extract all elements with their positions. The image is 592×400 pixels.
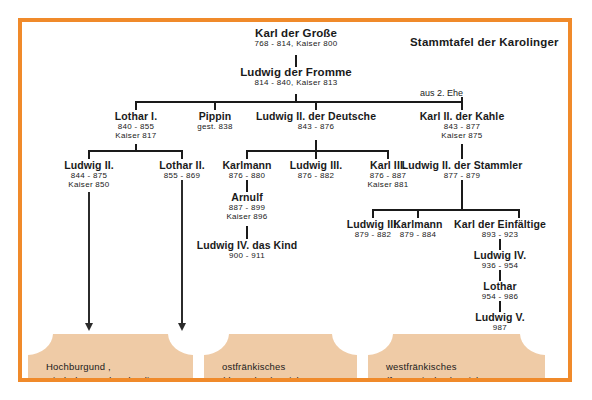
banner-notch-left [368,334,393,355]
banner-line-1: westfränkisches [386,360,482,374]
banner-line-2: (deutsches) Reich [222,374,302,378]
connector-vertical [461,144,463,159]
banner-notch-right [332,334,357,355]
node-ludwig-ii-der-stammler: Ludwig II. der Stammler 877 - 879 [402,160,523,181]
node-ludwig-v: Ludwig V. 987 [475,312,525,333]
node-dates-2: Kaiser 896 [226,213,267,222]
page-title: Stammtafel der Karolinger [410,36,559,48]
connector-drop [181,150,183,159]
node-dates: 876 - 882 [290,172,342,181]
node-name: Karl der Große [255,27,338,39]
node-dates: 768 - 814, Kaiser 800 [255,40,338,49]
connector-horizontal [372,209,519,211]
node-name: Karl II. der Kahle [420,111,505,122]
node-dates-2: Kaiser 817 [115,132,157,141]
node-dates: 900 - 911 [197,252,298,261]
stammtafel-karolinger-chart: Stammtafel der Karolinger aus 2. Ehe Kar… [0,0,592,400]
node-dates: 843 - 876 [256,123,376,132]
node-name: Arnulf [226,192,267,203]
node-dates-2: Kaiser 881 [367,181,408,190]
node-name: Lothar II. [159,160,204,171]
connector-drop [246,150,248,159]
node-karlmann-879: Karlmann 879 - 884 [393,219,442,240]
connector-drop [315,150,317,159]
node-dates: 879 - 884 [393,231,442,240]
node-name: Ludwig III. [347,219,399,230]
node-karl-ii-der-kahle: Karl II. der Kahle 843 - 877 Kaiser 875 [420,111,505,141]
node-lothar-ii: Lothar II. 855 - 869 [159,160,204,181]
banner-text: ostfränkisches (deutsches) Reich [222,360,302,378]
node-lothar-i: Lothar I. 840 - 855 Kaiser 817 [115,111,157,141]
banner-line-2: Niederburgund und Italien [46,374,160,378]
connector-horizontal [88,150,183,152]
node-name: Ludwig IV. [474,250,527,261]
connector-drop [461,97,463,110]
connector-drop [417,209,419,218]
connector-vertical [461,180,463,192]
node-name: Ludwig der Fromme [240,66,352,78]
note-second-marriage: aus 2. Ehe [420,88,463,98]
node-karlmann-876: Karlmann 876 - 880 [222,160,271,181]
banner-westfraenkisches-reich: westfränkisches (französisches) Reich [368,334,545,378]
node-name: Ludwig II. der Stammler [402,160,523,171]
banner-notch-right [520,334,545,355]
node-arnulf: Arnulf 887 - 899 Kaiser 896 [226,192,267,222]
connector-drop [518,209,520,218]
node-name: Ludwig III. [290,160,342,171]
node-name: Karlmann [222,160,271,171]
node-ludwig-iv-das-kind: Ludwig IV. das Kind 900 - 911 [197,240,298,261]
node-karl-der-einfaeltige: Karl der Einfältige 893 - 923 [454,219,546,240]
node-ludwig-der-fromme: Ludwig der Fromme 814 - 840, Kaiser 813 [240,66,352,88]
node-dates-2: Kaiser 875 [420,132,505,141]
connector-drop [88,150,90,159]
connector-drop [214,101,216,110]
banner-notch-left [28,334,53,355]
node-karl-der-grosse: Karl der Große 768 - 814, Kaiser 800 [255,27,338,49]
banner-notch-left [204,334,229,355]
connector-horizontal [135,101,463,103]
node-ludwig-ii: Ludwig II. 844 - 875 Kaiser 850 [64,160,113,190]
node-name: Ludwig II. [64,160,113,171]
node-name: Lothar I. [115,111,157,122]
banner-hochburgund: Hochburgund , Niederburgund und Italien [28,334,193,378]
connector-drop [372,209,374,218]
node-name: Ludwig V. [475,312,525,323]
connector-drop [315,101,317,110]
node-ludwig-iv: Ludwig IV. 936 - 954 [474,250,527,271]
node-dates: 879 - 882 [347,231,399,240]
banner-line-1: Hochburgund , [46,360,160,374]
banner-notch-right [168,334,193,355]
connector-drop [135,101,137,110]
banner-ostfraenkisches-reich: ostfränkisches (deutsches) Reich [204,334,357,378]
arrow-ludwig-ii-to-burgundy [88,192,90,324]
connector-vertical [461,192,463,210]
arrow-lothar-ii-to-burgundy [181,180,183,324]
node-pippin: Pippin gest. 838 [197,111,233,132]
node-name: Pippin [197,111,233,122]
node-dates: gest. 838 [197,123,233,132]
node-ludwig-iii-876: Ludwig III. 876 - 882 [290,160,342,181]
connector-horizontal [246,150,388,152]
node-ludwig-ii-der-deutsche: Ludwig II. der Deutsche 843 - 876 [256,111,376,132]
banner-text: westfränkisches (französisches) Reich [386,360,482,378]
banner-line-2: (französisches) Reich [386,374,482,378]
node-dates: 987 [475,324,525,333]
connector-drop [387,150,389,159]
node-ludwig-iii-879: Ludwig III. 879 - 882 [347,219,399,240]
banner-text: Hochburgund , Niederburgund und Italien [46,360,160,378]
node-name: Karlmann [393,219,442,230]
node-name: Ludwig IV. das Kind [197,240,298,251]
node-lothar-954: Lothar 954 - 986 [482,281,519,302]
node-name: Ludwig II. der Deutsche [256,111,376,122]
node-name: Lothar [482,281,519,292]
banner-line-1: ostfränkisches [222,360,302,374]
node-dates-2: Kaiser 850 [64,181,113,190]
node-name: Karl der Einfältige [454,219,546,230]
node-dates: 814 - 840, Kaiser 813 [240,79,352,88]
connector-vertical [246,226,248,239]
